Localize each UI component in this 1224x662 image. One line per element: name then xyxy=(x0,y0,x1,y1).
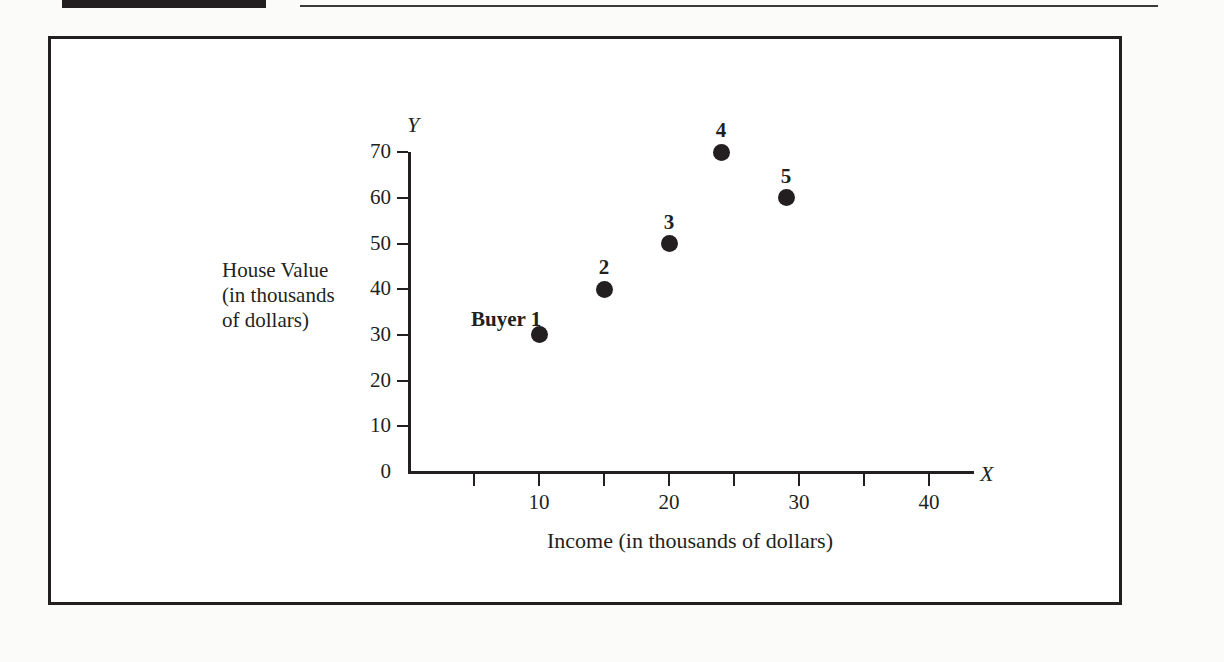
figure-frame xyxy=(48,36,1122,605)
header-rule-line xyxy=(300,5,1158,7)
page-background: Y X House Value (in thousands of dollars… xyxy=(0,0,1224,662)
header-black-bar xyxy=(62,0,266,8)
